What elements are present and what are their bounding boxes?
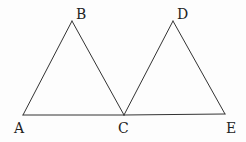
label-D: D	[177, 6, 188, 22]
segment-CE	[124, 114, 225, 115]
segments	[23, 21, 225, 115]
label-B: B	[76, 6, 86, 22]
segment-DE	[173, 21, 225, 114]
label-A: A	[13, 120, 25, 136]
segment-CD	[124, 21, 173, 115]
segment-BC	[72, 21, 124, 115]
segment-AB	[23, 21, 72, 115]
label-E: E	[226, 120, 236, 136]
label-C: C	[118, 120, 129, 136]
geometry-diagram: A B C D E	[0, 0, 246, 142]
